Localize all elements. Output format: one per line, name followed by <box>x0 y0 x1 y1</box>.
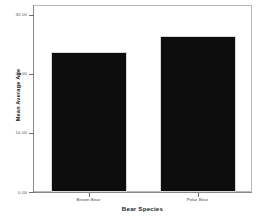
y-tick-mark <box>29 192 34 193</box>
x-tick-label: Polar Bear <box>158 197 238 203</box>
bar-polar-bear <box>160 36 236 192</box>
bar-chart: 0.0010.0020.0030.00 Brown BearPolar Bear… <box>0 0 261 218</box>
plot-area <box>34 6 252 192</box>
y-tick-label: 0.00 <box>18 190 27 195</box>
x-axis-title: Bear Species <box>33 205 252 212</box>
bar-brown-bear <box>51 52 127 192</box>
y-axis-title: Mean Average Age <box>15 35 21 155</box>
x-axis-line <box>33 192 252 193</box>
x-tick-label: Brown Bear <box>49 197 129 203</box>
y-tick-label: 30.00 <box>16 12 28 17</box>
